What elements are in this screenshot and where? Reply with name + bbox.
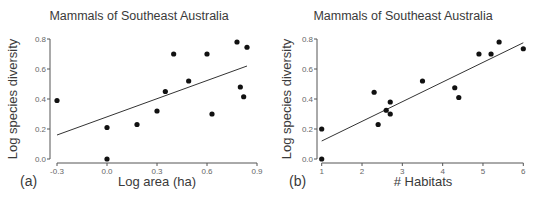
scatter-plot-a: Mammals of Southeast Australia Log speci…: [0, 0, 275, 201]
scatter-plot-b: Mammals of Southeast Australia Log speci…: [275, 0, 550, 201]
data-point: [376, 122, 381, 127]
plot-area: 0.00.20.40.60.8123456: [302, 35, 526, 176]
regression-line: [322, 43, 524, 141]
x-tick-label: 1: [319, 167, 324, 176]
y-tick-label: 0.8: [35, 35, 47, 44]
y-tick-label: 0.2: [35, 125, 47, 134]
data-point: [134, 122, 139, 127]
x-tick-label: 0.9: [251, 167, 263, 176]
x-tick-label: 2: [360, 167, 365, 176]
y-tick-label: 0.6: [302, 65, 314, 74]
y-axis: 0.00.20.40.60.8: [35, 35, 50, 164]
y-axis: 0.00.20.40.60.8: [302, 35, 317, 164]
y-axis-label: Log species diversity: [5, 38, 20, 159]
data-point: [497, 39, 502, 44]
data-point: [319, 156, 324, 161]
data-point: [388, 99, 393, 104]
x-tick-label: 5: [481, 167, 486, 176]
plot-area: 0.00.20.40.60.8-0.30.00.30.60.9: [35, 35, 263, 176]
data-point: [209, 111, 214, 116]
data-point: [104, 156, 109, 161]
x-axis: -0.30.00.30.60.9: [50, 163, 263, 176]
y-tick-label: 0.2: [302, 125, 314, 134]
data-point: [204, 51, 209, 56]
data-point: [420, 78, 425, 83]
y-tick-label: 0.0: [302, 155, 314, 164]
y-axis-label: Log species diversity: [279, 38, 294, 159]
data-point: [319, 126, 324, 131]
data-point: [104, 125, 109, 130]
data-point: [452, 85, 457, 90]
data-point: [244, 45, 249, 50]
x-tick-label: 3: [400, 167, 405, 176]
data-point: [54, 98, 59, 103]
y-tick-label: 0.0: [35, 155, 47, 164]
x-axis-label: Log area (ha): [118, 174, 196, 189]
data-point: [372, 90, 377, 95]
data-point: [388, 111, 393, 116]
chart-title: Mammals of Southeast Australia: [313, 9, 492, 23]
data-point: [238, 84, 243, 89]
data-point: [476, 51, 481, 56]
y-tick-label: 0.4: [302, 95, 314, 104]
data-point: [241, 94, 246, 99]
regression-line: [57, 66, 247, 135]
panel-label: (b): [289, 173, 306, 189]
x-tick-label: -0.3: [50, 167, 64, 176]
x-tick-label: 6: [521, 167, 526, 176]
data-point: [521, 46, 526, 51]
data-point: [456, 95, 461, 100]
data-point: [154, 108, 159, 113]
x-tick-label: 0.0: [101, 167, 113, 176]
data-point: [488, 51, 493, 56]
y-tick-label: 0.4: [35, 95, 47, 104]
chart-panel-b: Mammals of Southeast Australia Log speci…: [275, 0, 550, 201]
data-point: [171, 51, 176, 56]
y-tick-label: 0.8: [302, 35, 314, 44]
y-tick-label: 0.6: [35, 65, 47, 74]
data-point: [234, 39, 239, 44]
x-tick-label: 0.3: [151, 167, 163, 176]
data-point: [163, 89, 168, 94]
chart-title: Mammals of Southeast Australia: [49, 9, 228, 23]
x-tick-label: 0.6: [201, 167, 213, 176]
data-point: [186, 78, 191, 83]
x-tick-label: 4: [440, 167, 445, 176]
x-axis-label: # Habitats: [394, 174, 453, 189]
chart-panel-a: Mammals of Southeast Australia Log speci…: [0, 0, 275, 201]
data-point: [384, 108, 389, 113]
panel-label: (a): [20, 173, 37, 189]
